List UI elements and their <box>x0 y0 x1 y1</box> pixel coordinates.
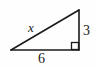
triangle-drawing <box>0 0 96 68</box>
right-triangle-figure: x 3 6 <box>0 0 96 68</box>
vertical-leg-label: 3 <box>83 24 90 38</box>
hypotenuse-label: x <box>28 21 34 34</box>
figure-background <box>0 0 96 68</box>
horizontal-leg-label: 6 <box>38 52 45 66</box>
